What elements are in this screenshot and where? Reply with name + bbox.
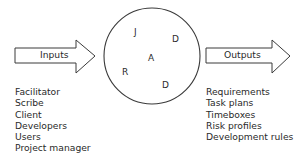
- outputs-list: Requirements Task plans Timeboxes Risk p…: [206, 86, 293, 142]
- outputs-item: Requirements: [206, 86, 293, 97]
- inputs-item: Users: [15, 131, 91, 142]
- outputs-item: Development rules: [206, 131, 293, 142]
- circle-letter-r: R: [122, 67, 128, 77]
- circle-letter-d1: D: [172, 34, 179, 44]
- circle-letter-j: J: [134, 27, 137, 37]
- circle-letter-d2: D: [162, 80, 169, 90]
- inputs-list: Facilitator Scribe Client Developers Use…: [15, 86, 91, 154]
- outputs-arrow-label: Outputs: [224, 49, 261, 60]
- outputs-item: Risk profiles: [206, 120, 293, 131]
- outputs-item: Timeboxes: [206, 109, 293, 120]
- inputs-item: Scribe: [15, 97, 91, 108]
- inputs-arrow-label: Inputs: [40, 49, 69, 60]
- circle-letter-a: A: [148, 53, 154, 63]
- inputs-item: Client: [15, 109, 91, 120]
- inputs-item: Project manager: [15, 142, 91, 153]
- inputs-item: Developers: [15, 120, 91, 131]
- inputs-item: Facilitator: [15, 86, 91, 97]
- outputs-item: Task plans: [206, 97, 293, 108]
